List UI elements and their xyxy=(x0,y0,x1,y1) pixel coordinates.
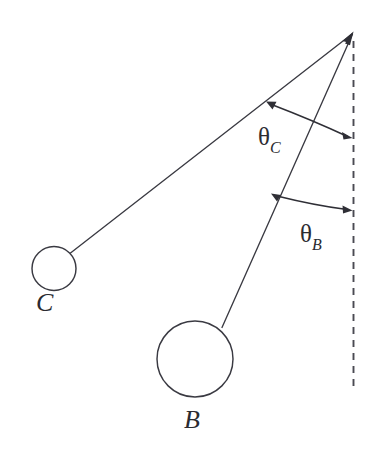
bob-label-b: B xyxy=(184,407,200,433)
angle-arc-theta-b xyxy=(277,196,347,210)
theta-glyph-c: θ xyxy=(258,123,270,150)
angle-label-theta-b: θB xyxy=(300,221,322,249)
theta-subscript-c: C xyxy=(270,139,281,156)
pendulum-bob-b xyxy=(157,321,233,397)
angle-arc-theta-b-arrowhead-right xyxy=(343,206,353,214)
angle-label-theta-c: θC xyxy=(258,124,281,152)
pendulum-figure: C B θC θB xyxy=(0,0,382,455)
pendulum-diagram-svg xyxy=(0,0,382,455)
bob-label-c: C xyxy=(36,290,53,316)
pendulum-rod-b xyxy=(222,34,353,328)
theta-glyph-b: θ xyxy=(300,220,312,247)
pendulum-bob-c xyxy=(32,247,76,291)
theta-subscript-b: B xyxy=(312,236,322,253)
angle-arc-theta-c-arrowhead-right xyxy=(342,132,353,140)
